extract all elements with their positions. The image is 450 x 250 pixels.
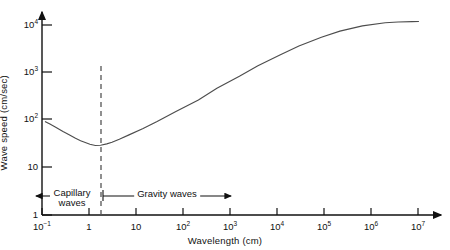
gravity-waves-label: Gravity waves [134,189,200,199]
capillary-waves-label: Capillary waves [43,188,101,208]
x-tick-label-1000000: 106 [364,222,378,232]
capillary-waves-label-line2: waves [59,197,86,208]
x-axis-ticks [42,208,418,215]
y-tick-label-100: 102 [24,114,38,124]
y-axis-ticks [42,25,52,215]
y-tick-label-10000: 104 [24,20,38,30]
y-tick-label-1: 1 [33,210,38,220]
x-tick-label-100: 102 [176,222,190,232]
x-tick-label-10000: 104 [270,222,284,232]
y-axis-title: Wave speed (cm/sec) [0,75,9,170]
x-tick-label-10: 10 [131,222,142,232]
x-tick-label-1000: 103 [223,222,237,232]
chart-canvas [0,0,450,250]
x-tick-label-0.1: 10−1 [33,222,51,232]
x-tick-label-100000: 105 [317,222,331,232]
y-tick-label-1000: 103 [24,67,38,77]
y-tick-label-10: 10 [27,162,38,172]
wave-speed-wavelength-chart: 104 103 102 10 1 10−1 1 10 102 103 104 1… [0,0,450,250]
x-axis-title: Wavelength (cm) [188,236,262,246]
x-tick-label-1: 1 [86,222,91,232]
wave-speed-curve [45,22,418,146]
x-tick-label-10000000: 107 [411,222,425,232]
